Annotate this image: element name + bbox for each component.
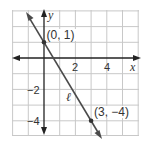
y-axis-up-arrow-icon (41, 9, 47, 17)
y-axis-down-arrow-icon (41, 127, 47, 135)
point-label-3-neg4: (3, −4) (94, 105, 129, 119)
x-tick-4: 4 (104, 61, 110, 73)
point-3-neg4 (89, 119, 94, 124)
line-name-label: ℓ (66, 90, 71, 104)
y-tick-neg4: −4 (27, 115, 40, 127)
point-label-0-1: (0, 1) (47, 28, 75, 42)
line-top-arrow-icon (26, 12, 34, 21)
x-axis-label: x (129, 60, 136, 74)
x-axis-left-arrow-icon (12, 55, 20, 61)
y-axis-label: y (47, 8, 54, 22)
x-tick-2: 2 (72, 61, 78, 73)
line-bottom-arrow-icon (95, 130, 103, 139)
coordinate-plane: 2 4 x y −2 −4 (0, 1) (3, −4) ℓ (0, 0, 147, 141)
y-tick-neg2: −2 (27, 84, 40, 96)
